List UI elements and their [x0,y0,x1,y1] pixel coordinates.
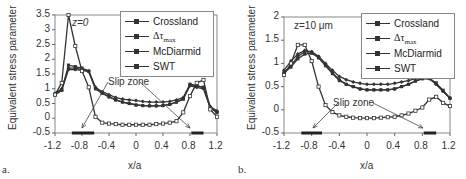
z-annotation-a: z=0 [72,17,88,28]
legend-b: Crossland Δτmax McDiarmid SWT [361,13,455,79]
y-tick-label: 1.5 [36,67,50,78]
x-tick-label: 0.4 [155,140,169,151]
y-tick-label: 1 [273,56,279,67]
legend-item-mcdiarmid: McDiarmid [125,44,209,59]
y-tick-label: 1.5 [265,33,279,44]
legend-item-crossland: Crossland [125,14,209,29]
x-tick-label: 0 [133,140,139,151]
legend-item-delta-tau-max: Δτmax [366,31,450,46]
x-tick-label: -1.2 [44,140,61,151]
x-tick-label: -0.8 [71,140,88,151]
x-tick-label: -0.4 [98,140,115,151]
y-tick-label: -0.5 [33,126,50,137]
x-tick-label: 1.2 [209,140,223,151]
legend-item-delta-tau-max: Δτmax [125,29,209,44]
slip-zone-label-b: Slip zone [333,97,374,108]
panel-label-a: a. [2,163,10,175]
y-tick-label: 2 [273,10,279,21]
series-marker-icon [366,20,390,28]
y-tick-label: 3.5 [36,8,50,19]
x-tick-label: 0.8 [414,140,428,151]
panel-label-b: b. [238,163,246,175]
z-annotation-b: z=10 μm [294,20,333,31]
x-tick-label: 0 [364,140,370,151]
x-tick-label: 0.4 [386,140,400,151]
y-tick-label: 1 [44,82,50,93]
y-axis-label-b: Equivalent stress parameter [246,5,257,130]
y-tick-label: 0 [273,103,279,114]
y-tick-label: 3 [44,23,50,34]
legend-item-swt: SWT [366,61,450,76]
y-axis-label-a: Equivalent stress parameter [7,5,18,130]
chart-panel-a: Equivalent stress parameter -0.500.511.5… [0,0,233,179]
legend-item-crossland: Crossland [366,16,450,31]
series-marker-icon [366,35,390,43]
x-tick-label: 0.8 [182,140,196,151]
series-marker-icon [366,50,390,58]
series-marker-icon [125,18,149,26]
x-tick-label: -1.2 [273,140,290,151]
slip-zone-label-a: Slip zone [108,76,149,87]
x-tick-label: -0.4 [328,140,345,151]
y-tick-label: 0 [44,111,50,122]
series-marker-icon [125,48,149,56]
series-marker-icon [125,63,149,71]
y-tick-label: -0.5 [262,126,279,137]
legend-a: Crossland Δτmax McDiarmid SWT [120,11,214,77]
x-axis-label-b: x/a [360,160,373,171]
y-tick-label: 2.5 [36,38,50,49]
series-marker-icon [125,33,149,41]
y-tick-label: 0.5 [36,97,50,108]
legend-item-swt: SWT [125,59,209,74]
x-axis-label-a: x/a [128,160,141,171]
y-tick-label: 2 [44,52,50,63]
chart-panel-b: Equivalent stress parameter -0.500.511.5… [233,0,466,179]
legend-item-mcdiarmid: McDiarmid [366,46,450,61]
x-tick-label: -0.8 [300,140,317,151]
series-marker-icon [366,65,390,73]
x-tick-label: 1.2 [442,140,456,151]
y-tick-label: 0.5 [265,80,279,91]
